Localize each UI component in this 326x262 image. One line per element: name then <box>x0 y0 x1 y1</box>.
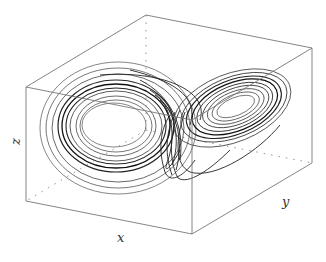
x-axis-label: x <box>117 230 124 245</box>
lorenz-attractor-figure: x y z <box>0 0 326 262</box>
attractor-right-wing <box>162 53 302 162</box>
attractor-left-wing <box>40 62 196 194</box>
plot-canvas <box>0 0 326 262</box>
box-visible-edges <box>26 15 312 234</box>
z-axis-label: z <box>8 138 23 145</box>
y-axis-label: y <box>282 194 289 209</box>
